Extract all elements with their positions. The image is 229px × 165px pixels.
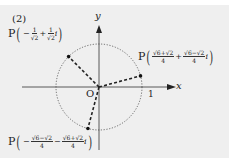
point-label-p3: P(−√6−√24−√6+√24i)	[8, 131, 93, 152]
sign: −	[23, 137, 30, 146]
operator: −	[54, 137, 61, 146]
point-label-p2: P(√6+√24+√6−√24i)	[138, 46, 215, 67]
point-name: P	[138, 50, 145, 63]
y-axis-label: y	[95, 10, 101, 21]
origin-label: O	[86, 88, 94, 99]
operator: +	[39, 29, 46, 38]
real-part: √6−√24	[31, 134, 53, 149]
imag-part: √6−√24	[183, 49, 205, 64]
imag-part: 1√2	[47, 26, 55, 41]
point-p2	[139, 74, 143, 78]
real-part: 1√2	[31, 26, 39, 41]
imag-part: √6+√24	[62, 134, 84, 149]
operator: +	[175, 52, 182, 61]
point-p1	[67, 55, 71, 59]
radius-p1	[69, 57, 99, 87]
unit-tick-label: 1	[148, 89, 154, 99]
x-axis-arrow-icon	[167, 84, 176, 90]
point-name: P	[8, 135, 15, 148]
point-p3	[86, 127, 90, 131]
x-axis-label: x	[176, 80, 182, 91]
y-axis-arrow-icon	[96, 25, 102, 33]
radius-p2	[99, 76, 141, 87]
real-part: √6+√24	[152, 49, 174, 64]
sign: −	[23, 29, 30, 38]
point-label-p1: P(−1√2+1√2i)	[8, 23, 64, 44]
point-name: P	[8, 27, 15, 40]
